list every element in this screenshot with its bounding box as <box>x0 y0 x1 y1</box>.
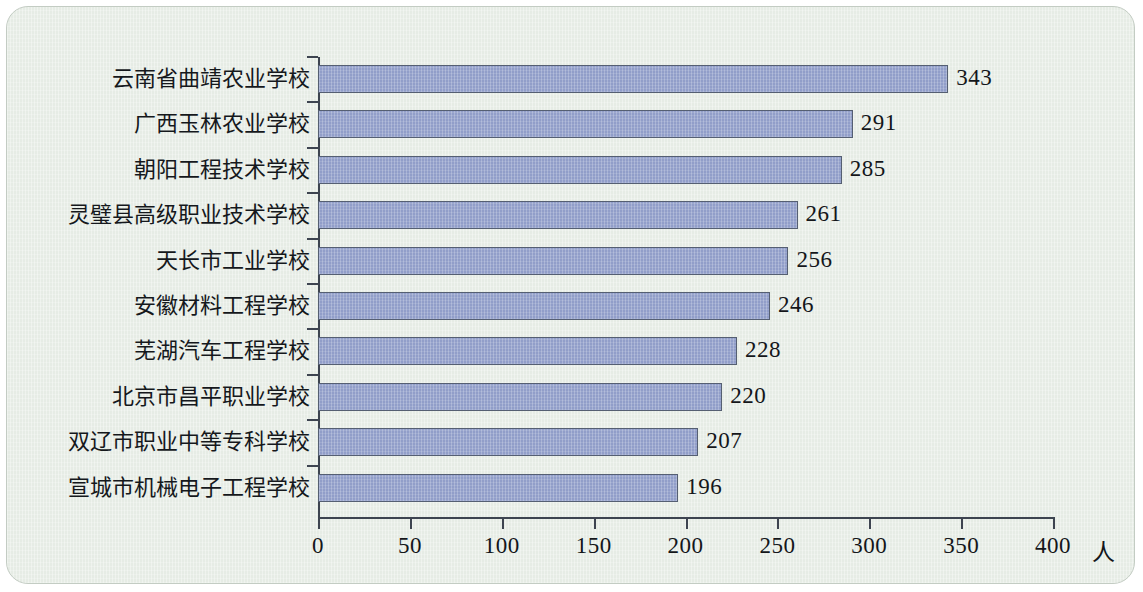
bar[interactable] <box>318 474 678 502</box>
category-axis-tick <box>307 283 318 285</box>
bar[interactable] <box>318 247 788 275</box>
value-axis-tick <box>869 519 871 529</box>
value-axis-tick <box>686 519 688 529</box>
bar-value-label: 196 <box>686 474 722 500</box>
value-axis-tick-label: 350 <box>943 533 979 559</box>
bar[interactable] <box>318 201 798 229</box>
bar-value-label: 246 <box>778 292 814 318</box>
bar[interactable] <box>318 337 737 365</box>
plot-area: 343291285261256246228220207196 050100150… <box>318 63 1053 517</box>
bar-value-label: 343 <box>956 65 992 91</box>
value-axis-tick-label: 250 <box>759 533 795 559</box>
bar[interactable] <box>318 292 770 320</box>
bar-value-label: 261 <box>806 202 842 228</box>
category-axis-tick <box>307 56 318 58</box>
bar-value-label: 285 <box>850 156 886 182</box>
category-axis-tick <box>307 419 318 421</box>
bar-value-label: 207 <box>706 429 742 455</box>
value-axis-tick <box>777 519 779 529</box>
value-axis-unit-label: 人 <box>1092 533 1115 567</box>
category-axis-tick <box>307 101 318 103</box>
category-label: 北京市昌平职业学校 <box>10 383 310 411</box>
value-axis-tick-label: 150 <box>576 533 612 559</box>
bar-value-label: 220 <box>730 383 766 409</box>
value-axis-tick-label: 0 <box>312 533 324 559</box>
value-axis-tick-label: 200 <box>668 533 704 559</box>
category-label: 宣城市机械电子工程学校 <box>10 474 310 502</box>
value-axis-tick <box>1053 519 1055 529</box>
value-axis-tick-label: 300 <box>851 533 887 559</box>
category-label: 安徽材料工程学校 <box>10 292 310 320</box>
category-axis-tick <box>307 147 318 149</box>
category-axis-tick <box>307 328 318 330</box>
category-label: 云南省曲靖农业学校 <box>10 65 310 93</box>
category-axis-tick <box>307 238 318 240</box>
category-label: 天长市工业学校 <box>10 247 310 275</box>
category-axis-tick <box>307 465 318 467</box>
bar[interactable] <box>318 156 842 184</box>
category-label: 灵璧县高级职业技术学校 <box>10 201 310 229</box>
category-label: 双辽市职业中等专科学校 <box>10 428 310 456</box>
category-axis-labels: 云南省曲靖农业学校广西玉林农业学校朝阳工程技术学校灵璧县高级职业技术学校天长市工… <box>7 63 310 517</box>
bar-value-label: 228 <box>745 338 781 364</box>
category-label: 广西玉林农业学校 <box>10 110 310 138</box>
category-label: 芜湖汽车工程学校 <box>10 337 310 365</box>
bar-value-label: 256 <box>796 247 832 273</box>
bar[interactable] <box>318 383 722 411</box>
value-axis-tick <box>318 519 320 529</box>
bar-value-label: 291 <box>861 111 897 137</box>
value-axis-tick <box>594 519 596 529</box>
bar[interactable] <box>318 428 698 456</box>
bar[interactable] <box>318 110 853 138</box>
category-axis-tick <box>307 192 318 194</box>
value-axis-tick <box>410 519 412 529</box>
value-axis-tick <box>961 519 963 529</box>
category-label: 朝阳工程技术学校 <box>10 156 310 184</box>
category-axis-tick <box>307 374 318 376</box>
value-axis-tick-label: 400 <box>1035 533 1071 559</box>
value-axis-tick-label: 100 <box>484 533 520 559</box>
chart-frame: 云南省曲靖农业学校广西玉林农业学校朝阳工程技术学校灵璧县高级职业技术学校天长市工… <box>6 6 1135 584</box>
bar[interactable] <box>318 65 948 93</box>
value-axis-tick <box>502 519 504 529</box>
value-axis-tick-label: 50 <box>398 533 422 559</box>
